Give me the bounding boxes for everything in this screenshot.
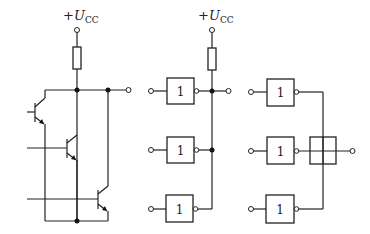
- output-terminal-middle: [226, 89, 231, 94]
- transistor-2: [27, 135, 77, 221]
- svg-text:1: 1: [177, 144, 185, 158]
- circuit-diagram: +UCC: [0, 0, 370, 234]
- vcc-terminal-left: [75, 28, 80, 33]
- left-circuit: +UCC: [27, 8, 131, 224]
- transistor-3: [27, 180, 108, 221]
- junction-dot: [75, 219, 80, 224]
- transistor-1: [27, 90, 45, 221]
- resistor-left: [73, 47, 81, 69]
- output-terminal-left: [126, 88, 131, 93]
- svg-text:1: 1: [277, 145, 285, 159]
- middle-circuit: +UCC 1 1 1: [149, 8, 234, 222]
- svg-text:1: 1: [276, 203, 284, 217]
- supply-label-middle: +UCC: [198, 8, 234, 25]
- not-gate-right-2: 1: [249, 137, 299, 164]
- not-gate-right-3: 1: [249, 195, 324, 223]
- supply-label-left: +UCC: [63, 8, 99, 25]
- not-gate-middle-3: 1: [149, 195, 213, 222]
- right-circuit: 1 1 1: [249, 79, 356, 223]
- svg-text:1: 1: [176, 203, 184, 217]
- not-gate-right-1: 1: [249, 79, 324, 106]
- vcc-terminal-middle: [210, 28, 215, 33]
- not-gate-middle-2: 1: [149, 137, 213, 163]
- output-terminal-right: [350, 149, 355, 154]
- junction-dot: [75, 88, 80, 93]
- not-gate-middle-1: 1: [149, 78, 213, 104]
- svg-text:1: 1: [277, 86, 285, 100]
- svg-text:1: 1: [177, 85, 185, 99]
- resistor-middle: [208, 48, 216, 70]
